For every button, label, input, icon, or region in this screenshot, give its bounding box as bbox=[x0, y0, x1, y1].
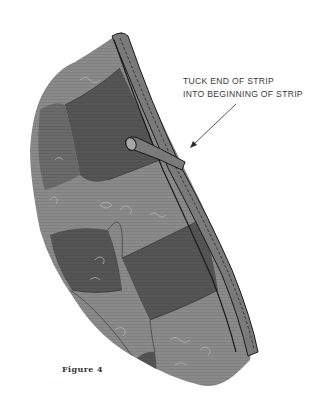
annotation-label: TUCK END OF STRIP INTO BEGINNING OF STRI… bbox=[183, 75, 303, 101]
annotation-line-2: INTO BEGINNING OF STRIP bbox=[183, 88, 303, 101]
figure: TUCK END OF STRIP INTO BEGINNING OF STRI… bbox=[0, 0, 320, 410]
figure-caption: Figure 4 bbox=[62, 364, 103, 374]
quilt-body bbox=[0, 0, 320, 410]
pointer-arrow-icon bbox=[190, 104, 236, 148]
annotation-line-1: TUCK END OF STRIP bbox=[183, 75, 303, 88]
quilt-binding-illustration bbox=[0, 0, 320, 410]
